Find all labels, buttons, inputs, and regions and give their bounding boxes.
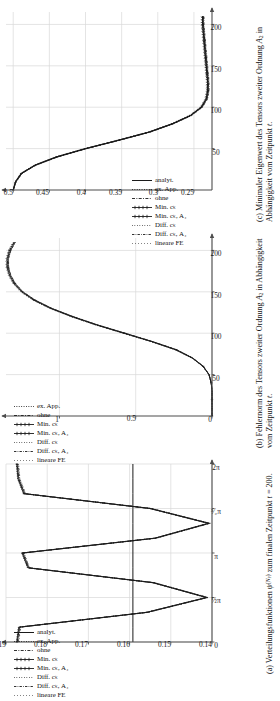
- legend-item: lineare FE: [132, 239, 186, 248]
- legend-item: Min. cₖ: [14, 420, 68, 429]
- y-tick-label: 0: [208, 415, 212, 422]
- y-tick-label: 0.14: [199, 641, 212, 648]
- legend-item: Diff. cₖ: [132, 221, 186, 230]
- legend-label: ex. App.: [155, 185, 178, 193]
- x-tick-label: ½π: [211, 598, 220, 605]
- y-tick-label: 0.35: [109, 189, 122, 196]
- y-tick-label: 0.45: [36, 189, 49, 196]
- x-tick-label: 200: [210, 250, 221, 257]
- series-curve: [13, 16, 207, 190]
- legend-line-icon: [14, 673, 34, 682]
- panel-c-caption: (c) Minimaler Eigenwert des Tensors zwei…: [255, 10, 276, 222]
- y-tick-label: 0.15: [158, 641, 171, 648]
- legend-item: Min. cₖ: [132, 203, 186, 212]
- legend-item: ex. App.: [14, 637, 68, 646]
- legend-item: ohne: [14, 411, 68, 420]
- legend-line-icon: [132, 185, 152, 194]
- legend-line-icon: [132, 221, 152, 230]
- legend-label: ohne: [155, 194, 168, 202]
- legend-item: Min. cₖ, A₄: [132, 212, 186, 221]
- legend-line-icon: [132, 239, 152, 248]
- x-tick-label: 200: [210, 24, 221, 31]
- legend-label: Diff. cₖ: [37, 438, 58, 446]
- legend-label: lineare FE: [37, 691, 66, 699]
- legend-item: ex. App.: [132, 185, 186, 194]
- x-tick-label: 100: [210, 107, 221, 114]
- panel-c: 0.250.30.350.40.450.550100150200analyt.e…: [0, 2, 280, 228]
- series-curve: [13, 16, 207, 190]
- panel-b-caption: (b) Fehlernorm des Tensors zweiter Ordnu…: [255, 236, 276, 448]
- x-tick-label: 150: [210, 66, 221, 73]
- panel-b-axis-multiplier: ·10⁻²: [0, 430, 1, 446]
- legend-label: Diff. cₖ: [37, 673, 58, 681]
- legend-item: Min. cₖ: [14, 655, 68, 664]
- panel-c-plot-area: 0.250.30.350.40.450.550100150200analyt.e…: [6, 12, 212, 190]
- y-tick-label: 0.17: [75, 641, 88, 648]
- y-tick-label: 0.4: [76, 189, 85, 196]
- legend-label: ohne: [37, 411, 50, 419]
- legend-item: Diff. cₖ, A₄: [132, 230, 186, 239]
- panel-b-tag: (b): [255, 439, 264, 448]
- legend-label: Min. cₖ: [155, 203, 176, 211]
- panel-a-plot-area: 0.140.150.160.170.180.190½ππ³⁄₂π2πanalyt…: [6, 464, 212, 642]
- legend-label: ohne: [37, 646, 50, 654]
- legend-label: ex. App.: [37, 637, 60, 645]
- legend-item: Diff. cₖ, A₄: [14, 447, 68, 456]
- legend-item: Diff. cₖ: [14, 673, 68, 682]
- legend-item: analyt.: [14, 628, 68, 637]
- x-tick-label: 50: [212, 149, 219, 156]
- legend-line-icon: [14, 664, 34, 673]
- legend-line-icon: [14, 691, 34, 700]
- legend-label: lineare FE: [155, 239, 184, 247]
- panel-a-canvas: 0.140.150.160.170.180.190½ππ³⁄₂π2πanalyt…: [6, 464, 212, 642]
- legend-item: ohne: [132, 194, 186, 203]
- legend-label: Min. cₖ: [37, 655, 58, 663]
- legend-line-icon: [132, 176, 152, 185]
- legend-label: Diff. cₖ, A₄: [37, 447, 68, 455]
- legend-item: ohne: [14, 646, 68, 655]
- x-tick-label: 150: [210, 292, 221, 299]
- panel-b-caption-text: Fehlernorm des Tensors zweiter Ordnung A…: [255, 239, 275, 448]
- legend-item: ex. App.: [14, 402, 68, 411]
- panel-a-tag: (a): [265, 665, 274, 674]
- x-tick-label: ³⁄₂π: [211, 509, 221, 516]
- legend-label: Min. cₖ, A₄: [155, 212, 186, 220]
- legend-line-icon: [14, 420, 34, 429]
- legend: ex. App.ohneMin. cₖMin. cₖ, A₄Diff. cₖDi…: [14, 402, 68, 465]
- x-tick-label: 2π: [212, 464, 219, 471]
- legend-line-icon: [14, 456, 34, 465]
- legend-label: lineare FE: [37, 456, 66, 464]
- x-tick-label: 100: [210, 333, 221, 340]
- panel-b: ·10⁻² 00.5150100150200ex. App.ohneMin. c…: [0, 228, 280, 454]
- series-curve: [13, 16, 207, 190]
- series-curve: [13, 16, 206, 190]
- legend-item: analyt.: [132, 176, 186, 185]
- series-curve: [13, 16, 209, 190]
- legend-label: Min. cₖ: [37, 420, 58, 428]
- legend-label: analyt.: [37, 628, 56, 636]
- legend-line-icon: [14, 438, 34, 447]
- legend-label: Diff. cₖ, A₄: [37, 682, 68, 690]
- x-tick-label: 50: [212, 375, 219, 382]
- y-tick-label: 0.5: [4, 189, 13, 196]
- legend-line-icon: [14, 402, 34, 411]
- legend-label: analyt.: [155, 176, 174, 184]
- y-tick-label: 0.5: [126, 415, 135, 422]
- panel-c-caption-text: Minimaler Eigenwert des Tensors zweiter …: [255, 27, 275, 222]
- panel-a-caption: (a) Verteilungsfunktionen ψ(NP) zum fina…: [265, 462, 276, 674]
- legend-line-icon: [132, 194, 152, 203]
- legend-item: lineare FE: [14, 691, 68, 700]
- legend-line-icon: [14, 628, 34, 637]
- legend-label: Min. cₖ, A₄: [37, 429, 68, 437]
- series-curve: [13, 16, 208, 190]
- legend-item: Min. cₖ, A₄: [14, 664, 68, 673]
- legend-item: lineare FE: [14, 456, 68, 465]
- panel-c-canvas: 0.250.30.350.40.450.550100150200analyt.e…: [6, 12, 212, 190]
- series-curve: [13, 16, 208, 190]
- legend-line-icon: [14, 682, 34, 691]
- legend-item: Min. cₖ, A₄: [14, 429, 68, 438]
- legend-label: ex. App.: [37, 402, 60, 410]
- legend-line-icon: [14, 646, 34, 655]
